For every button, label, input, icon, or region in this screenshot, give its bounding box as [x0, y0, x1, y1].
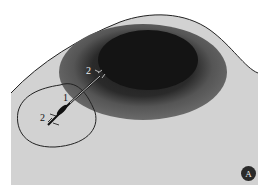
label-2-lower: 2	[40, 113, 45, 123]
eye-illustration	[0, 0, 272, 191]
eye-diagram: 2 1 2 A	[0, 0, 272, 191]
label-2-upper: 2	[86, 66, 91, 76]
pupil	[98, 30, 198, 90]
panel-label-badge: A	[241, 166, 256, 181]
label-1: 1	[63, 93, 68, 103]
